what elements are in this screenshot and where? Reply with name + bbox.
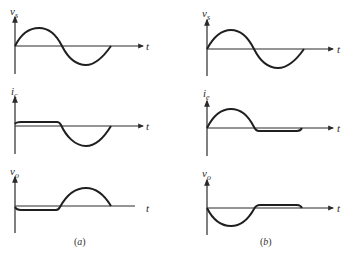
- panel-b-vs-plot: [207, 20, 333, 76]
- panel-b-vs-xlabel: t: [337, 44, 340, 55]
- panel-a-vs-xlabel: t: [146, 41, 149, 52]
- panel-a-vo-ylabel: vo: [10, 166, 19, 180]
- panel-a-ic-plot: [15, 97, 143, 154]
- panel-a-caption: (a): [74, 237, 86, 247]
- panel-b-ie-plot: [207, 101, 333, 156]
- panel-b-vo-plot: [207, 180, 333, 235]
- panel-a-vs-ylabel: vs: [10, 6, 18, 20]
- panel-b-caption: (b): [260, 237, 272, 247]
- panel-b-vs-ylabel: vs: [202, 8, 210, 22]
- panel-a-vo-xlabel: t: [146, 203, 149, 214]
- panel-a-ic-xlabel: t: [146, 121, 149, 132]
- panel-a-ic-ylabel: ic: [11, 86, 18, 100]
- panel-a-vo-plot: [15, 177, 135, 233]
- waveform-diagram: [0, 0, 345, 257]
- panel-b-ie-ylabel: ie: [203, 88, 210, 102]
- panel-b-ie-xlabel: t: [337, 123, 340, 134]
- panel-b: [207, 20, 333, 235]
- panel-b-vo-ylabel: vo: [202, 168, 211, 182]
- panel-a-vs-plot: [15, 17, 143, 74]
- panel-b-vo-xlabel: t: [337, 203, 340, 214]
- panel-a: [15, 17, 143, 233]
- vo-waveform: [15, 188, 111, 210]
